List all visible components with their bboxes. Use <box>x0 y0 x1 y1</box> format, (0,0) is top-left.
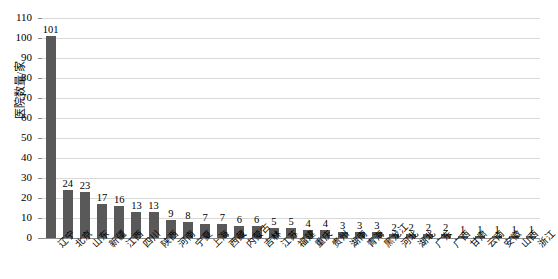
bar-value-label: 6 <box>237 214 242 225</box>
bar-item: 5 <box>269 18 279 238</box>
bar-value-label: 9 <box>168 208 173 219</box>
bar-item: 1 <box>526 18 536 238</box>
bar-value-label: 23 <box>80 180 91 191</box>
bar-item: 101 <box>46 18 56 238</box>
bar-item: 13 <box>149 18 159 238</box>
bar-item: 3 <box>338 18 348 238</box>
y-tick-label: 10 <box>0 211 32 223</box>
bar-value-label: 13 <box>131 200 142 211</box>
bar-item: 9 <box>166 18 176 238</box>
bar-item: 2 <box>406 18 416 238</box>
y-tick-label: 30 <box>0 171 32 183</box>
y-tick-label: 20 <box>0 191 32 203</box>
bar-item: 3 <box>372 18 382 238</box>
bar-item: 1 <box>475 18 485 238</box>
bar-item: 2 <box>423 18 433 238</box>
bar-item: 13 <box>131 18 141 238</box>
y-tick-label: 90 <box>0 51 32 63</box>
bar-item: 17 <box>97 18 107 238</box>
bar-item: 8 <box>183 18 193 238</box>
y-tick-label: 0 <box>0 231 32 243</box>
bar-value-label: 24 <box>63 178 74 189</box>
bar-item: 1 <box>509 18 519 238</box>
bar-item: 7 <box>217 18 227 238</box>
bar-item: 4 <box>320 18 330 238</box>
y-tick-label: 70 <box>0 91 32 103</box>
bar-value-label: 13 <box>148 200 159 211</box>
y-tick-label: 100 <box>0 31 32 43</box>
bar-item: 16 <box>114 18 124 238</box>
bar-item: 1 <box>458 18 468 238</box>
bar-value-label: 17 <box>97 192 108 203</box>
x-axis-labels: 辽宁北京山东新疆江西四川陕西河南宁夏上海西藏内蒙古吉林江苏福建重庆贵州湖南青海黑… <box>42 240 540 279</box>
y-tick-label: 40 <box>0 151 32 163</box>
bar-value-label: 101 <box>43 24 59 35</box>
y-tick-label: 110 <box>0 11 32 23</box>
bar-series: 1012423171613139877665544333222211111 <box>42 18 540 238</box>
bar <box>46 36 56 238</box>
bar-value-label: 8 <box>185 210 190 221</box>
bar-value-label: 16 <box>114 194 125 205</box>
bar-item: 2 <box>389 18 399 238</box>
plot-area: 1012423171613139877665544333222211111 <box>42 18 540 238</box>
bar-item: 24 <box>63 18 73 238</box>
bar-item: 3 <box>355 18 365 238</box>
y-tick-label: 60 <box>0 111 32 123</box>
bar-item: 7 <box>200 18 210 238</box>
bar-item: 2 <box>441 18 451 238</box>
bar-value-label: 7 <box>220 212 225 223</box>
y-tick-mark <box>38 238 42 239</box>
bar-item: 1 <box>492 18 502 238</box>
bar-item: 4 <box>303 18 313 238</box>
bar-item: 23 <box>80 18 90 238</box>
y-tick-label: 80 <box>0 71 32 83</box>
bar-value-label: 7 <box>203 212 208 223</box>
bar-item: 6 <box>252 18 262 238</box>
bar-item: 6 <box>234 18 244 238</box>
y-tick-label: 50 <box>0 131 32 143</box>
bar-item: 5 <box>286 18 296 238</box>
